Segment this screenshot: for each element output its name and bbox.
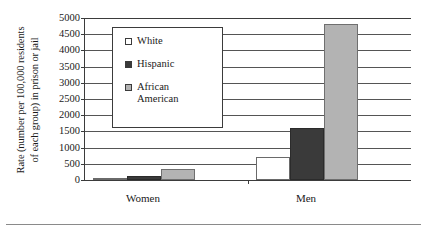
bar-men-hispanic: [290, 128, 324, 180]
bar-women-hispanic: [127, 176, 161, 180]
y-axis-tick: [81, 115, 85, 116]
legend-swatch-hispanic-icon: [125, 61, 132, 68]
legend-item-african-american: African American: [125, 81, 222, 105]
legend-swatch-white-icon: [125, 38, 132, 45]
y-axis-tick: [81, 164, 85, 165]
y-axis-tick: [81, 50, 85, 51]
y-axis-tick-label: 1500: [36, 126, 80, 136]
y-axis-tick-labels: 5000450040003500300025002000150010005000: [36, 12, 80, 184]
y-axis-tick-label: 3000: [36, 78, 80, 88]
y-axis-tick-label: 5000: [36, 13, 80, 23]
legend-label-african-american: African American: [137, 81, 178, 105]
bottom-divider: [6, 224, 421, 225]
legend-item-hispanic: Hispanic: [125, 58, 222, 70]
y-axis-tick-label: 0: [36, 175, 80, 185]
y-axis-tick-label: 4000: [36, 45, 80, 55]
y-axis-tick-label: 2000: [36, 110, 80, 120]
bar-women-african: [161, 169, 195, 180]
bar-chart-figure: Rate (number per 100,000 residents of ea…: [0, 0, 427, 235]
plot-top-border: [85, 18, 411, 19]
bar-men-african: [324, 24, 358, 180]
legend-label-hispanic: Hispanic: [137, 58, 174, 70]
y-axis-tick-label: 3500: [36, 62, 80, 72]
y-axis-tick: [81, 99, 85, 100]
y-axis-tick-label: 4500: [36, 29, 80, 39]
gridline: [85, 148, 411, 149]
x-axis-label-men: Men: [266, 192, 346, 204]
x-axis-label-women: Women: [103, 192, 183, 204]
y-axis-tick: [81, 131, 85, 132]
gridline: [85, 131, 411, 132]
y-axis-tick-label: 500: [36, 159, 80, 169]
y-axis-tick: [81, 67, 85, 68]
bar-men-white: [256, 157, 290, 180]
y-axis-tick-label: 1000: [36, 143, 80, 153]
gridline: [85, 164, 411, 165]
x-axis-group-separator: [248, 180, 249, 184]
chart-legend: White Hispanic African American: [112, 27, 223, 128]
legend-item-white: White: [125, 35, 222, 47]
y-axis-tick: [81, 18, 85, 19]
y-axis-tick: [81, 34, 85, 35]
y-axis-tick: [81, 180, 85, 181]
y-axis-tick-label: 2500: [36, 94, 80, 104]
y-axis-tick: [81, 148, 85, 149]
legend-swatch-african-american-icon: [125, 84, 132, 91]
y-axis-tick: [81, 83, 85, 84]
bar-women-white: [93, 178, 127, 180]
legend-label-white: White: [137, 35, 163, 47]
